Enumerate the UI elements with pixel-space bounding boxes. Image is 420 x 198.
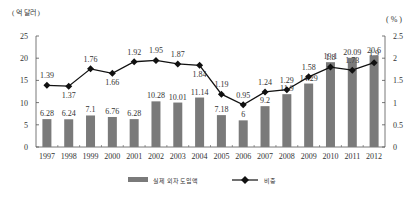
bar bbox=[217, 115, 226, 147]
line-marker bbox=[262, 88, 269, 95]
right-tick-label: 2 bbox=[393, 54, 397, 63]
bar bbox=[326, 62, 335, 147]
combo-chart: ( 억 달러 ) ( % ) 051015202500.511.522.5 6.… bbox=[0, 0, 420, 198]
right-tick-label: 0.5 bbox=[393, 121, 403, 130]
line-value-label: 1.92 bbox=[127, 48, 141, 57]
bar bbox=[261, 106, 270, 147]
x-tick-label: 2000 bbox=[104, 152, 120, 161]
right-tick-label: 2.5 bbox=[393, 32, 403, 41]
line-value-label: 1.84 bbox=[193, 70, 207, 79]
bar bbox=[239, 120, 248, 147]
x-tick-label: 2008 bbox=[279, 152, 295, 161]
right-tick-label: 1 bbox=[393, 99, 397, 108]
right-tick-label: 0 bbox=[393, 143, 397, 152]
x-tick-label: 2010 bbox=[322, 152, 338, 161]
bar bbox=[282, 94, 291, 147]
legend-line-label: 비중 bbox=[264, 177, 276, 185]
bar-value-label: 7.18 bbox=[214, 105, 228, 114]
left-tick-label: 20 bbox=[20, 54, 28, 63]
x-tick-label: 2002 bbox=[148, 152, 164, 161]
x-tick-label: 2007 bbox=[257, 152, 273, 161]
x-tick-label: 2009 bbox=[301, 152, 317, 161]
bar-value-label: 9.2 bbox=[260, 96, 270, 105]
line-marker bbox=[174, 60, 181, 67]
line-value-label: 1.76 bbox=[84, 55, 98, 64]
line-value-label: 1.73 bbox=[345, 56, 359, 65]
bar bbox=[86, 115, 95, 147]
left-tick-label: 25 bbox=[20, 32, 28, 41]
bar bbox=[304, 84, 313, 147]
bar bbox=[195, 98, 204, 147]
bar-value-label: 6.28 bbox=[40, 109, 54, 118]
line-value-label: 1.29 bbox=[280, 76, 294, 85]
chart-canvas: ( 억 달러 ) ( % ) 051015202500.511.522.5 6.… bbox=[0, 0, 420, 198]
bar bbox=[173, 103, 182, 147]
bar-value-label: 10.28 bbox=[147, 91, 165, 100]
legend-diamond-icon bbox=[241, 176, 249, 184]
x-tick-label: 2011 bbox=[344, 152, 360, 161]
x-tick-label: 2005 bbox=[213, 152, 229, 161]
x-tick-label: 2012 bbox=[366, 152, 382, 161]
bar bbox=[42, 119, 51, 147]
bar bbox=[370, 56, 379, 147]
bar-value-label: 6.28 bbox=[127, 109, 141, 118]
line-value-label: 1.39 bbox=[40, 71, 54, 80]
line-value-label: 1.95 bbox=[149, 46, 163, 55]
line-value-label: 1.66 bbox=[105, 78, 119, 87]
x-tick-label: 2004 bbox=[192, 152, 208, 161]
line-marker bbox=[240, 101, 247, 108]
left-tick-label: 5 bbox=[24, 121, 28, 130]
bar bbox=[130, 119, 139, 147]
bar-value-label: 10.01 bbox=[169, 93, 187, 102]
line-marker bbox=[131, 58, 138, 65]
bar-value-label: 6.76 bbox=[105, 107, 119, 116]
legend-bar-label: 실제 외자 도입액 bbox=[153, 177, 198, 185]
bar bbox=[108, 117, 117, 147]
right-tick-label: 1.5 bbox=[393, 76, 403, 85]
line-value-label: 1.19 bbox=[214, 80, 228, 89]
line-value-label: 1.9 bbox=[369, 49, 379, 58]
line-value-label: 0.95 bbox=[236, 91, 250, 100]
legend: 실제 외자 도입액 비중 bbox=[128, 176, 276, 185]
line-value-label: 1.8 bbox=[325, 53, 335, 62]
x-tick-label: 1998 bbox=[61, 152, 77, 161]
x-tick-label: 1999 bbox=[83, 152, 99, 161]
line-value-label: 1.87 bbox=[171, 50, 185, 59]
line-marker bbox=[152, 57, 159, 64]
left-axis-unit: ( 억 달러 ) bbox=[12, 8, 41, 17]
bar-value-label: 7.1 bbox=[86, 105, 96, 114]
bar-value-label: 6 bbox=[241, 110, 245, 119]
bar-value-label: 6.24 bbox=[62, 109, 76, 118]
line-value-label: 1.37 bbox=[62, 91, 76, 100]
bar-value-label: 11.14 bbox=[191, 88, 209, 97]
line-value-label: 1.24 bbox=[258, 78, 272, 87]
bar bbox=[64, 119, 73, 147]
legend-bar-swatch bbox=[128, 177, 148, 182]
x-tick-label: 1997 bbox=[39, 152, 55, 161]
x-axis-labels: 1997199819992000200120022003200420052006… bbox=[39, 152, 382, 161]
left-tick-label: 10 bbox=[20, 99, 28, 108]
line-marker bbox=[43, 82, 50, 89]
bar bbox=[151, 101, 160, 147]
right-axis-unit: ( % ) bbox=[386, 15, 402, 24]
line-value-label: 1.58 bbox=[302, 63, 316, 72]
line-path bbox=[47, 60, 374, 104]
line-marker bbox=[109, 70, 116, 77]
x-tick-label: 2006 bbox=[235, 152, 251, 161]
x-tick-label: 2001 bbox=[126, 152, 142, 161]
left-tick-label: 0 bbox=[24, 143, 28, 152]
left-tick-label: 15 bbox=[20, 76, 28, 85]
x-tick-label: 2003 bbox=[170, 152, 186, 161]
